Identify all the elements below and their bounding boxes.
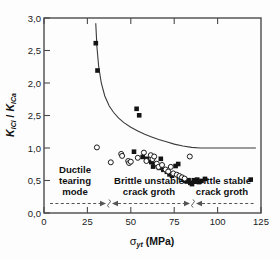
data-markers-filled: [94, 41, 254, 187]
x-ticklabel-2: 50: [126, 216, 137, 227]
region-stable-line2: crack groth: [196, 186, 248, 197]
y-axis-title: KICi / KICa: [4, 93, 17, 137]
scatter-plot: 0,0 0,5 1,0 2,5 2,0 2,5 3,0 0 25 50: [0, 0, 280, 260]
region-unstable-line1: Brittle unstable: [114, 175, 184, 186]
x-axis-tick-labels: 0 25 50 75 100 125: [41, 216, 269, 227]
brace-divider-1: [108, 200, 111, 208]
x-axis-title: σyt (MPa): [130, 235, 175, 249]
y-title-sub2: ICa: [10, 93, 17, 104]
region-divider-arrows: [50, 200, 256, 208]
y-axis-tick-labels: 0,0 0,5 1,0 2,5 2,0 2,5 3,0: [28, 13, 41, 219]
x-ticklabel-5: 125: [253, 216, 269, 227]
y-ticklabel-3: 2,5: [28, 110, 41, 121]
region-ductile-line2: tearing: [59, 175, 91, 186]
y-ticklabel-2: 1,0: [28, 143, 41, 154]
y-ticklabel-5: 2,5: [28, 45, 41, 56]
y-title-sep: /: [4, 112, 16, 121]
region-label-ductile: Ductile tearing mode: [59, 164, 91, 197]
region-stable-line1: Brittle stable: [193, 175, 251, 186]
y-ticklabel-6: 3,0: [28, 13, 41, 24]
x-ticklabel-0: 0: [41, 216, 46, 227]
x-ticklabel-4: 100: [210, 216, 226, 227]
x-ticklabel-3: 75: [169, 216, 180, 227]
x-ticklabel-1: 25: [82, 216, 93, 227]
region-ductile-line1: Ductile: [59, 164, 91, 175]
region-label-brittle-unstable: Brittle unstable crack groth: [114, 175, 184, 197]
y-axis-ticks: [44, 18, 50, 213]
y-ticklabel-0: 0,0: [28, 208, 41, 219]
region-unstable-line2: crack groth: [123, 186, 175, 197]
svg-text:KICi / KICa: KICi / KICa: [4, 93, 17, 137]
x-title-units: (MPa): [146, 235, 175, 247]
region-ductile-line3: mode: [62, 186, 88, 197]
region-label-brittle-stable: Brittle stable crack groth: [193, 175, 251, 197]
figure-container: 0,0 0,5 1,0 2,5 2,0 2,5 3,0 0 25 50: [0, 0, 280, 260]
brace-divider-2: [192, 200, 195, 208]
y-ticklabel-1: 0,5: [28, 175, 41, 186]
y-ticklabel-4: 2,0: [28, 78, 41, 89]
fit-curve: [96, 23, 256, 148]
